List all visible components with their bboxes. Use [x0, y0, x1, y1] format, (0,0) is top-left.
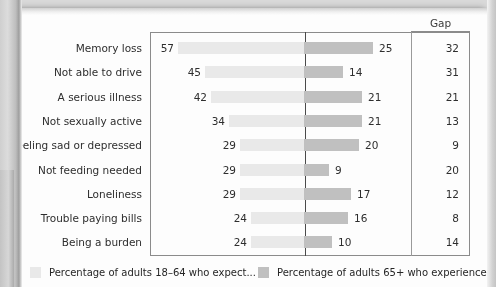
gap-value: 14	[411, 230, 459, 254]
bar-65-plus	[304, 236, 332, 248]
value-label-18-64: 45	[150, 60, 201, 84]
value-label-65-plus: 25	[379, 36, 413, 60]
bar-65-plus	[304, 188, 351, 200]
bar-18-64	[229, 115, 304, 127]
bar-18-64	[178, 42, 304, 54]
value-label-65-plus: 21	[368, 109, 402, 133]
chart-row: A serious illness422121	[0, 85, 496, 109]
value-label-18-64: 29	[150, 158, 236, 182]
legend-swatch-65-plus	[258, 267, 269, 278]
bar-18-64	[251, 212, 304, 224]
bar-65-plus	[304, 164, 329, 176]
value-label-18-64: 34	[150, 109, 225, 133]
value-label-65-plus: 16	[354, 206, 388, 230]
value-label-18-64: 29	[150, 133, 236, 157]
bar-18-64	[240, 164, 304, 176]
value-label-18-64: 29	[150, 182, 236, 206]
gap-value: 20	[411, 158, 459, 182]
value-label-65-plus: 20	[365, 133, 399, 157]
value-label-65-plus: 21	[368, 85, 402, 109]
chart-legend: Percentage of adults 18–64 who expect...…	[0, 262, 496, 284]
page-gutter-shadow-lower	[0, 170, 14, 287]
value-label-65-plus: 10	[338, 230, 372, 254]
chart-row: Not able to drive451431	[0, 60, 496, 84]
gap-value: 21	[411, 85, 459, 109]
bar-18-64	[240, 139, 304, 151]
value-label-18-64: 57	[150, 36, 174, 60]
bar-18-64	[205, 66, 304, 78]
page-background: Gap Memory loss572532Not able to drive45…	[0, 0, 496, 287]
chart-row: Not feeding needed29920	[0, 158, 496, 182]
chart-row: Memory loss572532	[0, 36, 496, 60]
value-label-65-plus: 14	[349, 60, 383, 84]
gap-value: 8	[411, 206, 459, 230]
bar-65-plus	[304, 91, 362, 103]
bar-65-plus	[304, 212, 348, 224]
gap-value: 32	[411, 36, 459, 60]
bar-18-64	[211, 91, 304, 103]
bar-65-plus	[304, 42, 373, 54]
sheet-top-shadow	[17, 8, 487, 15]
chart-row: Not sexually active342113	[0, 109, 496, 133]
value-label-18-64: 42	[150, 85, 207, 109]
value-label-65-plus: 17	[357, 182, 391, 206]
bar-18-64	[251, 236, 304, 248]
value-label-18-64: 24	[150, 206, 247, 230]
chart-row: Feeling sad or depressed29209	[0, 133, 496, 157]
row-bars	[150, 36, 411, 60]
gap-value: 12	[411, 182, 459, 206]
gap-header-rule	[411, 31, 470, 32]
chart-row: Trouble paying bills24168	[0, 206, 496, 230]
bar-18-64	[240, 188, 304, 200]
gap-value: 31	[411, 60, 459, 84]
bar-65-plus	[304, 66, 343, 78]
legend-label-65-plus: Percentage of adults 65+ who experience.…	[277, 262, 496, 284]
gap-value: 9	[411, 133, 459, 157]
gap-value: 13	[411, 109, 459, 133]
gap-column-header: Gap	[411, 16, 470, 30]
bar-65-plus	[304, 139, 359, 151]
bar-65-plus	[304, 115, 362, 127]
page-right-edge	[487, 0, 496, 287]
legend-label-18-64: Percentage of adults 18–64 who expect...	[49, 262, 256, 284]
chart-row: Loneliness291712	[0, 182, 496, 206]
legend-swatch-18-64	[30, 267, 41, 278]
chart-row: Being a burden241014	[0, 230, 496, 254]
value-label-18-64: 24	[150, 230, 247, 254]
value-label-65-plus: 9	[335, 158, 369, 182]
